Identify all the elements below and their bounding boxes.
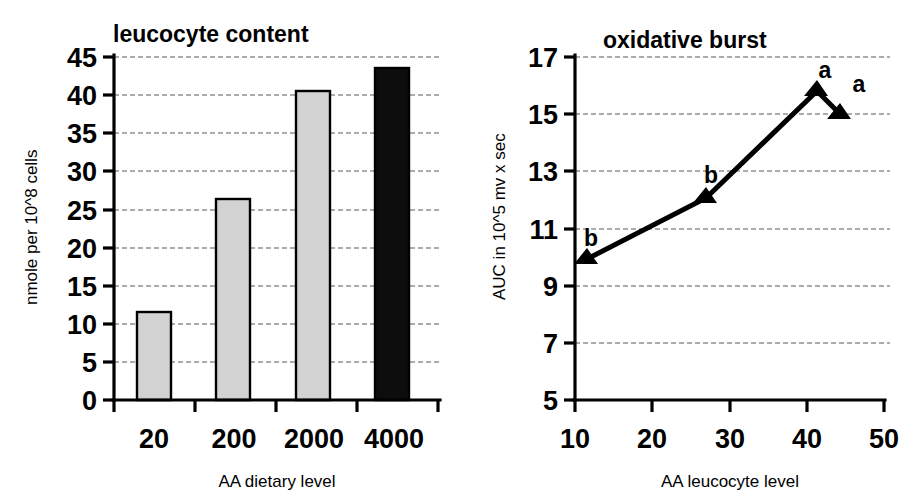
x-tick-label-10: 10 [560, 424, 590, 454]
y-axis-left [103, 55, 114, 400]
point-label-1: b [584, 225, 598, 251]
bar-200[interactable] [216, 199, 250, 400]
y-axis-title-left: nmole per 10^8 cells [22, 150, 41, 305]
point-annotations: b b a a [584, 57, 866, 251]
y-tick-label-5: 5 [82, 348, 97, 378]
line-chart-svg: oxidative burst AUC in 10^5 mv x sec [470, 0, 923, 501]
y-tick-label-35: 35 [67, 119, 97, 149]
gridlines-right [575, 57, 890, 343]
chart-panel-oxidative-burst: oxidative burst AUC in 10^5 mv x sec [470, 0, 923, 501]
y-tick-label-5: 5 [543, 386, 558, 416]
chart-title-left: leucocyte content [113, 21, 309, 47]
bar-series-left [137, 68, 409, 400]
chart-panel-leucocyte-content: leucocyte content nmole per 10^8 cells [0, 0, 470, 501]
x-tick-label-20: 20 [139, 424, 169, 454]
bar-chart-svg: leucocyte content nmole per 10^8 cells [0, 0, 470, 501]
x-axis-title-left: AA dietary level [218, 472, 335, 491]
chart-title-right: oxidative burst [603, 27, 767, 53]
y-tick-label-15: 15 [528, 100, 558, 130]
x-axis-title-right: AA leucocyte level [661, 472, 799, 491]
y-axis-right [564, 55, 575, 400]
x-tick-labels-right: 10 20 30 40 50 [560, 424, 899, 454]
x-tick-label-200: 200 [211, 424, 256, 454]
bar-2000[interactable] [296, 91, 330, 400]
y-axis-title-right: AUC in 10^5 mv x sec [490, 133, 509, 300]
y-tick-label-10: 10 [67, 310, 97, 340]
x-tick-label-40: 40 [792, 424, 822, 454]
y-tick-label-0: 0 [82, 386, 97, 416]
x-axis-right [574, 400, 885, 412]
y-tick-label-30: 30 [67, 157, 97, 187]
y-tick-label-25: 25 [67, 196, 97, 226]
y-tick-label-11: 11 [529, 215, 558, 245]
figure-container: leucocyte content nmole per 10^8 cells [0, 0, 923, 501]
y-tick-label-20: 20 [67, 234, 97, 264]
y-tick-label-9: 9 [543, 272, 558, 302]
x-tick-label-4000: 4000 [364, 424, 424, 454]
x-axis-left [113, 400, 440, 412]
x-tick-label-30: 30 [715, 424, 745, 454]
y-tick-label-13: 13 [528, 157, 558, 187]
y-tick-label-45: 45 [67, 43, 97, 73]
x-tick-labels-left: 20 200 2000 4000 [139, 424, 424, 454]
y-tick-label-17: 17 [528, 43, 558, 73]
bar-20[interactable] [137, 312, 171, 400]
x-tick-label-2000: 2000 [284, 424, 344, 454]
point-label-4: a [853, 71, 866, 97]
bar-4000[interactable] [375, 68, 409, 400]
point-label-3: a [819, 57, 832, 83]
y-tick-labels-left: 45 40 35 30 25 20 15 10 5 0 [67, 43, 97, 416]
y-tick-label-7: 7 [543, 329, 558, 359]
y-tick-label-40: 40 [67, 81, 97, 111]
x-tick-label-20: 20 [637, 424, 667, 454]
point-label-2: b [704, 162, 718, 188]
x-tick-label-50: 50 [869, 424, 899, 454]
y-tick-label-15: 15 [67, 272, 97, 302]
y-tick-labels-right: 17 15 13 11 9 7 5 [528, 43, 558, 416]
